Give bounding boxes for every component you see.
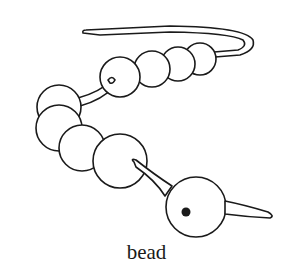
bead — [166, 177, 226, 237]
bead — [93, 134, 147, 188]
beads-on-string-drawing — [0, 0, 293, 272]
caption: bead — [0, 240, 293, 265]
bead — [100, 57, 140, 97]
bead-hole — [182, 208, 191, 217]
illustration-canvas: bead — [0, 0, 293, 272]
